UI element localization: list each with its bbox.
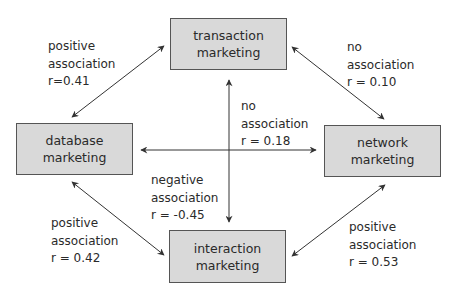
node-label: marketing [43,149,107,166]
node-label: marketing [197,44,261,61]
node-transaction-marketing: transaction marketing [170,18,287,70]
edge-label-transaction-interaction: negative association r = -0.45 [151,172,218,225]
edge-label-database-interaction: positive association r = 0.42 [51,215,118,268]
node-database-marketing: database marketing [16,123,133,175]
node-label: network [357,134,408,151]
node-label: marketing [351,151,415,168]
edge-label-network-interaction: positive association r = 0.53 [349,219,416,272]
node-interaction-marketing: interaction marketing [169,230,286,283]
node-label: interaction [194,240,262,257]
node-label: transaction [193,27,264,44]
edge-label-transaction-network: no association r = 0.10 [347,39,414,92]
edge-label-database-network: no association r = 0.18 [241,98,308,151]
node-label: marketing [196,257,260,274]
edge-label-database-transaction: positive association r=0.41 [48,38,115,91]
node-network-marketing: network marketing [324,125,441,177]
node-label: database [46,132,104,149]
